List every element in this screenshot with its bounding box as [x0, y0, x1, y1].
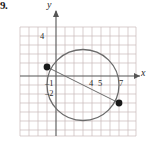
- graph-figure: 9.: [0, 0, 149, 143]
- tick-label-x-7: 7: [119, 78, 123, 88]
- x-axis-label: x: [141, 67, 145, 78]
- y-axis-label: y: [47, 0, 51, 10]
- tick-label-x-4: 4: [89, 78, 93, 88]
- endpoint-dot-right: [116, 100, 123, 107]
- y-axis-arrow: [53, 10, 59, 17]
- x-axis-arrow: [134, 73, 140, 79]
- tick-label-x-5: 5: [98, 78, 102, 88]
- coordinate-plane-svg: [0, 0, 149, 143]
- tick-label-y-neg2: –2: [45, 88, 54, 98]
- endpoint-dot-left: [44, 64, 51, 71]
- tick-label-x-neg1: –1: [45, 78, 54, 88]
- tick-label-y-4: 4: [40, 31, 44, 41]
